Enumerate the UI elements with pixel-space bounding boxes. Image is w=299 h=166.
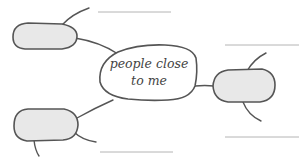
- branch-bottom-left-down: [34, 140, 39, 156]
- center-topic-line-1: people close: [106, 55, 192, 72]
- branch-right-down: [243, 102, 261, 121]
- center-topic-line-2: to me: [106, 72, 192, 89]
- branch-center-to-bottom-left: [77, 100, 113, 118]
- branch-top-left-up: [62, 8, 89, 25]
- branch-right-up: [247, 53, 266, 71]
- bubble-top-left[interactable]: [13, 23, 77, 49]
- branch-bottom-left-right: [74, 132, 96, 142]
- branch-center-to-right: [195, 86, 214, 87]
- bubble-bottom-left[interactable]: [14, 109, 78, 141]
- bubble-right[interactable]: [213, 69, 275, 102]
- branch-top-left-to-center: [75, 38, 118, 54]
- center-topic-label: people close to me: [106, 55, 192, 89]
